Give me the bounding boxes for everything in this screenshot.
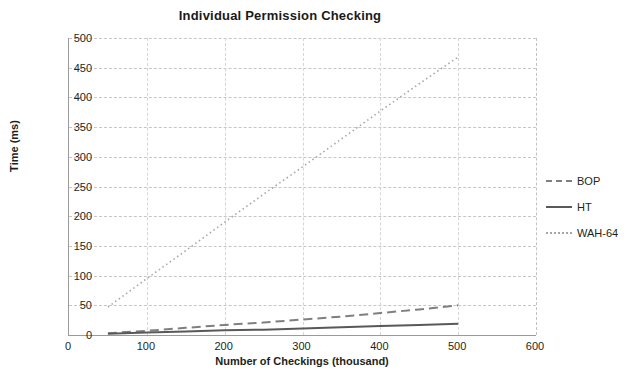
x-axis-tick-label: 500 xyxy=(437,340,477,352)
chart-container: Individual Permission Checking Time (ms)… xyxy=(0,0,634,375)
y-axis-tick-label: 450 xyxy=(52,62,92,74)
x-axis-tick-label: 600 xyxy=(515,340,555,352)
x-axis-title: Number of Checkings (thousand) xyxy=(68,355,536,367)
y-axis-tick-label: 350 xyxy=(52,121,92,133)
gridline-vertical xyxy=(536,38,537,335)
legend-swatch-bop xyxy=(546,176,572,186)
x-axis-tick-label: 200 xyxy=(204,340,244,352)
y-axis-tick-label: 250 xyxy=(52,181,92,193)
legend-item-wah64: WAH-64 xyxy=(546,220,632,246)
y-axis-tick-label: 200 xyxy=(52,210,92,222)
series-line-ht xyxy=(108,324,458,334)
series-line-wah-64 xyxy=(108,57,458,307)
y-axis-tick-label: 300 xyxy=(52,151,92,163)
legend-swatch-wah64 xyxy=(546,228,572,238)
x-axis-tick-label: 300 xyxy=(282,340,322,352)
x-axis-tick-label: 100 xyxy=(126,340,166,352)
x-axis-tick-label: 400 xyxy=(359,340,399,352)
legend-item-ht: HT xyxy=(546,194,632,220)
chart-legend: BOP HT WAH-64 xyxy=(546,168,632,246)
series-layer xyxy=(69,38,536,335)
y-axis-tick-label: 50 xyxy=(52,299,92,311)
chart-title: Individual Permission Checking xyxy=(0,8,560,23)
legend-label-bop: BOP xyxy=(577,175,600,187)
y-axis-tick-label: 100 xyxy=(52,270,92,282)
legend-label-wah64: WAH-64 xyxy=(577,227,618,239)
y-axis-tick-label: 400 xyxy=(52,91,92,103)
legend-label-ht: HT xyxy=(577,201,592,213)
legend-swatch-ht xyxy=(546,202,572,212)
x-axis-tick-label: 0 xyxy=(48,340,88,352)
legend-item-bop: BOP xyxy=(546,168,632,194)
y-axis-title: Time (ms) xyxy=(8,86,20,206)
y-axis-tick-label: 500 xyxy=(52,32,92,44)
y-axis-tick-label: 150 xyxy=(52,240,92,252)
plot-area xyxy=(68,38,536,336)
